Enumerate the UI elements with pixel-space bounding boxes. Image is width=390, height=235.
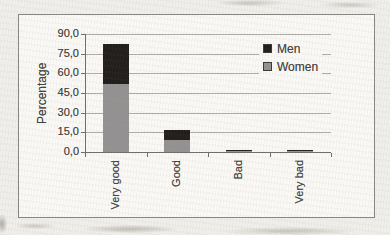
legend-label: Women [277, 60, 318, 74]
chart-frame: Percentage MenWomen 90,075,060,045,030,0… [18, 14, 375, 218]
y-axis-line [85, 34, 86, 153]
bar-segment [164, 140, 190, 152]
y-axis-tick-label: 90,0 [47, 27, 79, 40]
bar-segment [103, 84, 129, 152]
x-axis-tick [147, 153, 148, 157]
y-axis-tick-label: 15,0 [47, 125, 79, 138]
legend-swatch-women [263, 62, 272, 71]
y-axis-tick-label: 75,0 [47, 47, 79, 60]
y-axis-tick-label: 30,0 [47, 106, 79, 119]
legend-item: Women [263, 60, 318, 73]
legend-label: Men [277, 42, 300, 56]
legend-item: Men [263, 42, 318, 55]
bar-segment [103, 44, 129, 83]
x-axis-label: Good [170, 160, 182, 187]
x-axis-tick [85, 153, 86, 157]
x-axis-label: Bad [232, 160, 244, 180]
legend: MenWomen [259, 41, 322, 79]
x-axis-label: Very good [109, 160, 121, 210]
y-axis-tick-label: 45,0 [47, 86, 79, 99]
bar-segment [164, 130, 190, 140]
x-axis-tick [270, 153, 271, 157]
x-axis-label: Very bad [293, 160, 305, 203]
legend-swatch-men [263, 44, 272, 53]
scanned-chart-image: Percentage MenWomen 90,075,060,045,030,0… [0, 0, 390, 235]
x-axis-tick [331, 153, 332, 157]
y-axis-tick-label: 0,0 [47, 145, 79, 158]
gridline [85, 34, 331, 35]
x-axis-tick [208, 153, 209, 157]
y-axis-tick-label: 60,0 [47, 66, 79, 79]
